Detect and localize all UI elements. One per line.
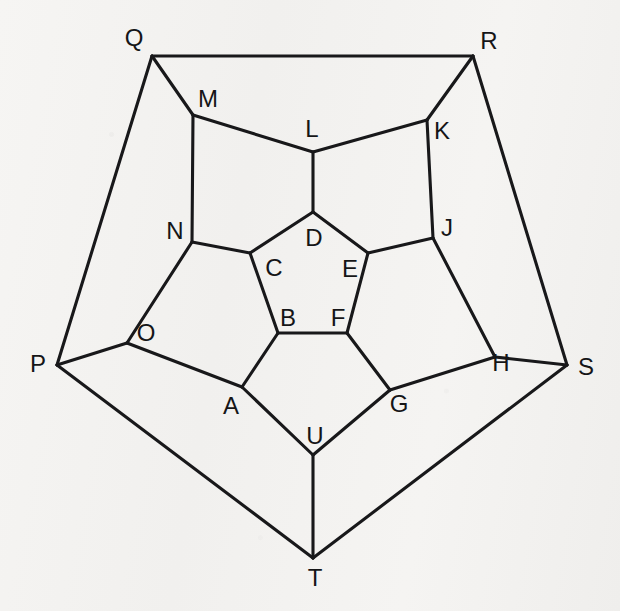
vertex-label-e: E bbox=[342, 257, 358, 281]
vertex-label-q: Q bbox=[125, 26, 144, 50]
vertex-label-m: M bbox=[198, 87, 218, 111]
vertex-label-f: F bbox=[331, 306, 346, 330]
vertex-label-o: O bbox=[137, 321, 156, 345]
graph-edge-r-s bbox=[473, 56, 567, 365]
graph-edge-j-h bbox=[433, 238, 495, 357]
graph-edge-k-r bbox=[427, 56, 473, 120]
graph-edge-s-t bbox=[313, 365, 567, 558]
vertex-label-s: S bbox=[578, 355, 594, 379]
vertex-label-j: J bbox=[441, 216, 453, 240]
graph-edge-u-a bbox=[242, 387, 313, 455]
vertex-label-b: B bbox=[280, 306, 296, 330]
graph-edge-l-k bbox=[313, 120, 427, 152]
dodecahedral-graph-figure: ABCDEFGHJKLMNOPQRSTU bbox=[0, 0, 620, 611]
vertex-label-h: H bbox=[492, 351, 509, 375]
graph-edge-m-l bbox=[193, 115, 313, 152]
vertex-label-n: N bbox=[166, 219, 183, 243]
graph-canvas bbox=[0, 0, 620, 611]
graph-edge-k-j bbox=[427, 120, 433, 238]
graph-edge-g-u bbox=[313, 390, 390, 455]
vertex-label-g: G bbox=[390, 392, 409, 416]
vertex-label-u: U bbox=[306, 424, 323, 448]
vertex-label-a: A bbox=[223, 394, 239, 418]
graph-edge-c-d bbox=[250, 212, 313, 253]
graph-edge-c-n bbox=[192, 242, 250, 253]
graph-edge-e-j bbox=[368, 238, 433, 253]
graph-edge-a-o bbox=[127, 343, 242, 387]
graph-edge-o-p bbox=[57, 343, 127, 365]
vertex-label-t: T bbox=[308, 566, 323, 590]
graph-edge-f-g bbox=[347, 333, 390, 390]
vertex-label-d: D bbox=[305, 226, 322, 250]
graph-edge-n-m bbox=[192, 115, 193, 242]
graph-edge-b-a bbox=[242, 333, 278, 387]
vertex-label-p: P bbox=[30, 352, 46, 376]
graph-edge-m-q bbox=[152, 56, 193, 115]
vertex-label-l: L bbox=[305, 117, 318, 141]
vertex-label-k: K bbox=[434, 119, 450, 143]
graph-edge-h-g bbox=[390, 357, 495, 390]
vertex-label-r: R bbox=[480, 29, 497, 53]
graph-edge-t-p bbox=[57, 365, 313, 558]
vertex-label-c: C bbox=[265, 256, 282, 280]
